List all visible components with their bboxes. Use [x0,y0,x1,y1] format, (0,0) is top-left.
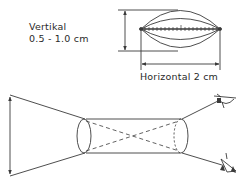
diagram-canvas [0,0,247,184]
eye-icon-bottom [220,153,236,173]
eye-icon-top [214,94,236,108]
lens-shape [140,11,222,48]
viewing-cylinder [77,119,188,153]
horizontal-dimension [141,31,220,70]
funnel-lines [10,95,85,176]
